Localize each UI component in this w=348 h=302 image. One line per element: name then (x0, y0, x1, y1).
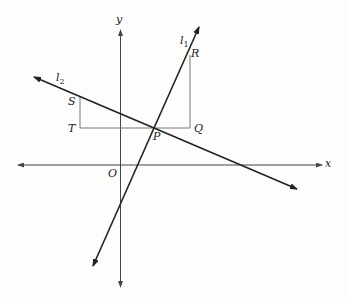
x-axis-label: x (325, 158, 331, 169)
line-l1 (93, 27, 199, 266)
line-l1-label: l1 (180, 35, 189, 49)
origin-label: O (108, 168, 117, 179)
helper-segments (80, 55, 190, 128)
point-p-label: P (153, 131, 160, 142)
diagram-canvas: y x O l1 l2 R S T Q P (0, 0, 348, 302)
point-q-label: Q (194, 123, 203, 134)
y-axis-label: y (116, 14, 122, 25)
diagram-svg (0, 0, 348, 302)
line-l2-label: l2 (56, 72, 65, 86)
point-s-label: S (68, 96, 76, 107)
point-r-label: R (191, 48, 199, 59)
point-t-label: T (68, 123, 75, 134)
line-l2-label-sub: 2 (60, 77, 65, 86)
line-l1-label-sub: 1 (184, 40, 189, 49)
